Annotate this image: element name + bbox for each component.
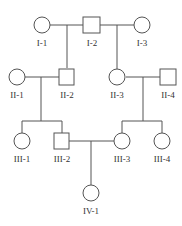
label-II-3: II-3 <box>110 90 124 100</box>
female-symbol <box>83 185 99 201</box>
male-symbol <box>83 17 100 33</box>
label-I-1: I-1 <box>37 38 48 48</box>
female-symbol <box>154 133 170 149</box>
individual-I-2: I-2 <box>83 17 100 48</box>
pedigree-chart: I-1 I-2 I-3 II-1 II-2 II-3 II-4 III-1 II… <box>0 0 182 226</box>
female-symbol <box>114 133 130 149</box>
label-II-4: II-4 <box>161 90 175 100</box>
individual-II-2: II-2 <box>59 69 74 100</box>
individual-III-3: III-3 <box>114 133 131 164</box>
female-symbol <box>109 69 125 85</box>
label-III-4: III-4 <box>154 154 171 164</box>
individual-III-1: III-1 <box>14 133 31 164</box>
label-III-3: III-3 <box>114 154 131 164</box>
individual-III-4: III-4 <box>154 133 171 164</box>
label-I-3: I-3 <box>137 38 148 48</box>
individual-II-3: II-3 <box>109 69 125 100</box>
individual-I-1: I-1 <box>34 17 50 48</box>
individual-II-1: II-1 <box>9 69 25 100</box>
female-symbol <box>134 17 150 33</box>
male-symbol <box>54 133 69 149</box>
female-symbol <box>14 133 30 149</box>
label-IV-1: IV-1 <box>83 206 99 216</box>
male-symbol <box>160 69 176 85</box>
label-III-2: III-2 <box>54 154 71 164</box>
individual-III-2: III-2 <box>54 133 71 164</box>
label-II-2: II-2 <box>60 90 74 100</box>
male-symbol <box>59 69 74 85</box>
label-I-2: I-2 <box>87 38 98 48</box>
individual-IV-1: IV-1 <box>83 185 99 216</box>
label-II-1: II-1 <box>10 90 24 100</box>
individual-II-4: II-4 <box>160 69 176 100</box>
individual-I-3: I-3 <box>134 17 150 48</box>
label-III-1: III-1 <box>14 154 31 164</box>
female-symbol <box>34 17 50 33</box>
female-symbol <box>9 69 25 85</box>
